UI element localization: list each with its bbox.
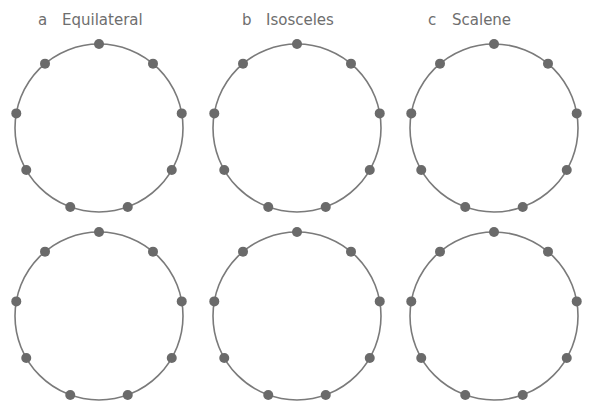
circle-outline bbox=[213, 232, 381, 400]
circle-point bbox=[148, 247, 158, 257]
circle-point bbox=[562, 165, 572, 175]
circle-point bbox=[40, 247, 50, 257]
circle-outline bbox=[15, 44, 183, 212]
circle-point bbox=[11, 108, 21, 118]
circle-point bbox=[346, 247, 356, 257]
circle-point bbox=[40, 59, 50, 69]
circle-point bbox=[94, 227, 104, 237]
circle-point bbox=[238, 247, 248, 257]
circle-point bbox=[321, 202, 331, 212]
circle-a-1 bbox=[11, 39, 186, 212]
circle-outline bbox=[15, 232, 183, 400]
circle-point bbox=[435, 247, 445, 257]
circle-point bbox=[572, 108, 582, 118]
circle-point bbox=[209, 296, 219, 306]
circle-point bbox=[435, 59, 445, 69]
circle-point bbox=[321, 390, 331, 400]
circle-point bbox=[21, 165, 31, 175]
circle-point bbox=[518, 202, 528, 212]
circle-point bbox=[238, 59, 248, 69]
circle-point bbox=[177, 108, 187, 118]
circle-point bbox=[416, 353, 426, 363]
nine-point-circles bbox=[0, 0, 593, 411]
circle-point bbox=[167, 353, 177, 363]
circle-point bbox=[65, 202, 75, 212]
circle-point bbox=[263, 390, 273, 400]
circle-point bbox=[460, 202, 470, 212]
circle-b-1 bbox=[209, 39, 384, 212]
circle-point bbox=[489, 227, 499, 237]
circle-point bbox=[177, 296, 187, 306]
circle-point bbox=[460, 390, 470, 400]
circle-point bbox=[489, 39, 499, 49]
circle-point bbox=[292, 39, 302, 49]
circle-point bbox=[518, 390, 528, 400]
circle-point bbox=[406, 296, 416, 306]
circle-point bbox=[167, 165, 177, 175]
circle-point bbox=[562, 353, 572, 363]
circle-point bbox=[375, 296, 385, 306]
circle-point bbox=[406, 108, 416, 118]
circle-outline bbox=[213, 44, 381, 212]
circle-point bbox=[416, 165, 426, 175]
circle-point bbox=[263, 202, 273, 212]
circle-c-1 bbox=[406, 39, 581, 212]
circle-point bbox=[219, 353, 229, 363]
circle-c-2 bbox=[406, 227, 581, 400]
circle-point bbox=[219, 165, 229, 175]
circle-point bbox=[123, 202, 133, 212]
circle-point bbox=[209, 108, 219, 118]
circle-point bbox=[543, 247, 553, 257]
circle-point bbox=[346, 59, 356, 69]
circle-point bbox=[365, 165, 375, 175]
circle-point bbox=[375, 108, 385, 118]
circle-point bbox=[292, 227, 302, 237]
circle-point bbox=[543, 59, 553, 69]
circle-point bbox=[123, 390, 133, 400]
circle-point bbox=[21, 353, 31, 363]
circle-point bbox=[65, 390, 75, 400]
circle-outline bbox=[410, 232, 578, 400]
circle-b-2 bbox=[209, 227, 384, 400]
circle-point bbox=[148, 59, 158, 69]
circle-point bbox=[94, 39, 104, 49]
circle-a-2 bbox=[11, 227, 186, 400]
circle-point bbox=[365, 353, 375, 363]
circle-point bbox=[11, 296, 21, 306]
circle-point bbox=[572, 296, 582, 306]
circle-outline bbox=[410, 44, 578, 212]
